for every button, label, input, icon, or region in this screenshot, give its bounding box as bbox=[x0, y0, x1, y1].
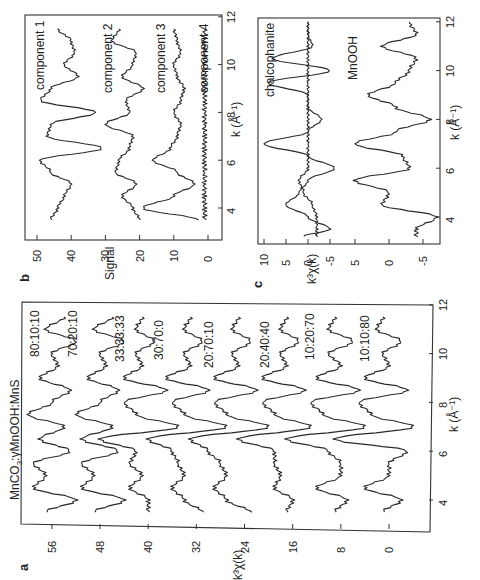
ytick-a-0: 0 bbox=[383, 547, 395, 553]
ytick-b-20: 20 bbox=[134, 250, 146, 262]
panel-letter-c: c bbox=[250, 281, 265, 288]
panel-a-title: MnCO3:γMnOOH:MnS bbox=[8, 380, 24, 500]
curve-label-component-1: component 1 bbox=[33, 21, 47, 90]
curve-mnooh bbox=[353, 22, 438, 237]
ytick-b-10: 10 bbox=[168, 250, 180, 262]
ytick-a-24: 24 bbox=[239, 541, 251, 553]
ytick-c-upper--5: -5 bbox=[324, 256, 336, 266]
xtick-c-12: 12 bbox=[444, 16, 456, 28]
xtick-a-10: 10 bbox=[437, 347, 449, 359]
curve-chalcophanite-reference bbox=[298, 22, 318, 237]
curve-label-33-33-33: 33:33:33 bbox=[113, 315, 127, 362]
title-subscript: 3 bbox=[15, 461, 24, 465]
curve-20-40-40 bbox=[236, 317, 311, 512]
xtick-a-12: 12 bbox=[437, 299, 449, 311]
ytick-c-lower-0: 0 bbox=[383, 260, 395, 266]
panel-c-ylabel: k³χ(k) bbox=[305, 254, 319, 284]
ytick-a-40: 40 bbox=[142, 541, 154, 553]
curve-label-20-40-40: 20:40:40 bbox=[258, 321, 272, 368]
ytick-a-32: 32 bbox=[190, 541, 202, 553]
curve-label-component-3: component 3 bbox=[154, 24, 168, 93]
curve-10-20-70 bbox=[285, 317, 366, 512]
ytick-b-0: 0 bbox=[202, 256, 214, 262]
curve-33-33-33 bbox=[98, 317, 179, 512]
xtick-c-6: 6 bbox=[444, 168, 456, 174]
curve-label-component-2: component 2 bbox=[101, 24, 115, 93]
curve-label-30-70-0: 30:70:0 bbox=[152, 320, 166, 360]
xtick-a-6: 6 bbox=[437, 451, 449, 457]
ytick-a-48: 48 bbox=[94, 541, 106, 553]
curve-label-chalcophanite: chalcophanite bbox=[263, 23, 277, 97]
panel-letter-b: b bbox=[17, 274, 32, 282]
axis-ticks bbox=[37, 17, 440, 529]
ytick-a-16: 16 bbox=[287, 541, 299, 553]
title-main: MnCO bbox=[8, 465, 22, 500]
xtick-b-6: 6 bbox=[225, 160, 237, 166]
panel-b-frame bbox=[25, 15, 222, 240]
ytick-b-40: 40 bbox=[65, 250, 77, 262]
curve-label-mnooh: MnOOH bbox=[346, 36, 360, 80]
ytick-c-upper-5: 5 bbox=[280, 260, 292, 266]
curve-label-10-20-70: 10:20:70 bbox=[303, 313, 317, 360]
panel-b-xlabel: k (Å⁻¹) bbox=[229, 102, 243, 137]
curve-label-10-10-80: 10:10:80 bbox=[358, 315, 372, 362]
curve-component-1 bbox=[39, 29, 101, 220]
ytick-c-lower--5: -5 bbox=[417, 256, 429, 266]
curve-label-70-20-10: 70:20:10 bbox=[66, 310, 80, 357]
curve-label-80-10-10: 80:10:10 bbox=[28, 310, 42, 357]
ytick-a-56: 56 bbox=[46, 541, 58, 553]
panel-a-ylabel: k³χ(k) bbox=[231, 550, 245, 580]
curve-20-70-10 bbox=[188, 317, 269, 512]
ytick-b-50: 50 bbox=[31, 250, 43, 262]
xtick-c-4: 4 bbox=[444, 217, 456, 223]
panel-a-xlabel: k (Å⁻¹) bbox=[447, 397, 461, 432]
xtick-c-8: 8 bbox=[444, 119, 456, 125]
title-rest: :γMnOOH:MnS bbox=[8, 380, 22, 461]
xtick-b-10: 10 bbox=[225, 58, 237, 70]
xtick-a-4: 4 bbox=[437, 500, 449, 506]
ytick-b-30: 30 bbox=[99, 250, 111, 262]
curve-label-component-4: component 4 bbox=[197, 24, 211, 93]
xtick-b-4: 4 bbox=[225, 208, 237, 214]
curve-component-3 bbox=[144, 29, 199, 220]
ytick-c-lower-5: 5 bbox=[349, 260, 361, 266]
xtick-c-10: 10 bbox=[444, 64, 456, 76]
xtick-a-8: 8 bbox=[437, 402, 449, 408]
curve-label-20-70-10: 20:70:10 bbox=[202, 321, 216, 368]
ytick-a-8: 8 bbox=[335, 547, 347, 553]
data-curves bbox=[27, 22, 438, 512]
xtick-b-8: 8 bbox=[225, 112, 237, 118]
ytick-c-upper-0: 0 bbox=[302, 260, 314, 266]
panel-letter-a: a bbox=[16, 564, 31, 571]
xtick-b-12: 12 bbox=[225, 11, 237, 23]
ytick-c-upper-10: 10 bbox=[258, 254, 270, 266]
